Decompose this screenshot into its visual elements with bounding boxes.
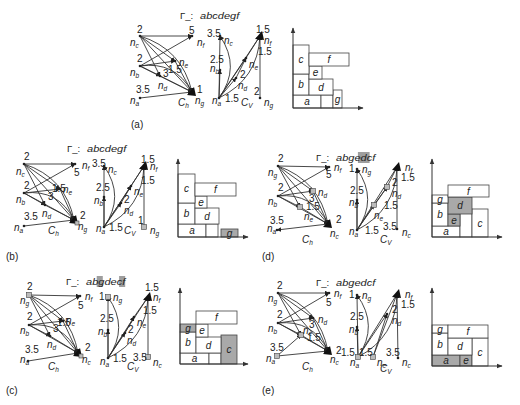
node-nc-dot-icon — [23, 163, 26, 166]
packing-chart: aecbdgf — [432, 288, 502, 366]
node-nb-weight: 2.5 — [350, 185, 364, 196]
module-label-e: e — [199, 325, 205, 336]
edge-g-f — [278, 166, 329, 167]
panel-label-a: (a) — [131, 119, 143, 130]
node-nb-dot-icon — [356, 326, 359, 329]
graph-name-cv: CV — [380, 234, 392, 246]
node-ne-square-icon — [298, 205, 303, 210]
constraint-graph-ch: 2nc5nf1.5ne2nb3nd2ng3.5naCh — [14, 151, 91, 237]
node-ne-dot-icon — [130, 185, 133, 188]
node-label-nd: nd — [42, 208, 52, 220]
panel-b: Γ_: abcdegf2nc5nf1.5ne2nb3nd2ng3.5naCh3.… — [6, 143, 248, 262]
node-label-nc: nc — [402, 357, 412, 369]
node-nd-dot-icon — [386, 313, 389, 316]
sequence-title: Γ_: abcdegf — [67, 143, 128, 154]
module-label-e: e — [313, 67, 319, 78]
node-label-nd: nd — [158, 80, 168, 92]
node-nc-weight: 3.5 — [386, 347, 400, 358]
node-nb-weight: 2 — [137, 53, 143, 64]
edge-a-g — [357, 169, 368, 230]
node-nd-dot-icon — [235, 77, 238, 80]
node-ne-dot-icon — [174, 60, 177, 63]
node-label-nf: nf — [150, 161, 159, 173]
node-label-ng: ng — [268, 167, 278, 180]
node-nb-dot-icon — [277, 195, 280, 198]
edge-a-c — [277, 351, 328, 356]
node-label-na: na — [130, 95, 140, 107]
constraint-graph-ch: 2ng5nf3nd2nb1.5ne2nc3.5naCh — [266, 280, 343, 373]
node-nf-weight: 5 — [326, 297, 332, 308]
graph-name-ch: Ch — [178, 97, 189, 109]
node-label-nb: nb — [98, 326, 108, 338]
node-nb-weight: 2 — [277, 309, 283, 320]
node-label-ne: ne — [66, 315, 76, 327]
module-label-d: d — [318, 82, 324, 93]
panel-label-d: (d) — [262, 251, 274, 262]
node-label-nc: nc — [153, 357, 163, 369]
node-nf-weight: 1.5 — [401, 299, 415, 310]
node-label-nb: nb — [94, 195, 104, 207]
node-ng-weight: 1 — [99, 291, 105, 302]
node-label-ne: ne — [304, 211, 314, 223]
node-nb-dot-icon — [277, 322, 280, 325]
node-ne-weight: 1.5 — [258, 46, 272, 57]
node-ng-square-icon — [106, 295, 111, 300]
node-nd-dot-icon — [124, 332, 127, 335]
node-nc-weight: 2 — [24, 151, 30, 162]
module-label-g: g — [437, 324, 443, 335]
node-ng-weight: 2 — [254, 86, 260, 97]
node-label-nc: nc — [330, 228, 340, 240]
node-nb-weight: 2 — [27, 311, 33, 322]
node-nb-weight: 2 — [278, 182, 284, 193]
graph-name-cv: CV — [380, 363, 392, 375]
node-nb-weight: 2 — [24, 180, 30, 191]
sequence-value: abgedcf — [336, 277, 377, 288]
node-nd-square-icon — [385, 185, 390, 190]
node-nc-weight: 2 — [336, 214, 342, 225]
sequence-title: Γ_: abgdecf — [66, 276, 127, 287]
node-na-weight: 1.5 — [365, 225, 379, 236]
panel-label-c: (c) — [6, 385, 18, 396]
module-label-g: g — [335, 94, 341, 105]
node-label-ng: ng — [362, 164, 372, 177]
node-ng-weight: 2 — [277, 280, 283, 291]
node-nf-dot-icon — [328, 166, 331, 169]
packing-chart: agbdecf — [178, 159, 248, 239]
node-nd-weight: 2 — [392, 177, 398, 188]
node-nc-dot-icon — [139, 35, 142, 38]
constraint-graph-ch: 2ng5nf1.5ne2nb3nd2nc3.5naCh — [20, 281, 94, 373]
module-label-e: e — [451, 215, 457, 226]
node-label-nf: nf — [405, 162, 414, 174]
node-na-weight: 3.5 — [136, 84, 150, 95]
node-nf-dot-icon — [328, 292, 331, 295]
sequence-title: Γ_: abgedcf — [316, 277, 377, 288]
edge-g-f — [29, 295, 80, 296]
module-label-b: b — [184, 208, 190, 219]
module-block-empty — [206, 224, 218, 237]
node-nb-dot-icon — [103, 196, 106, 199]
module-label-d: d — [457, 341, 463, 352]
node-label-nb: nb — [130, 67, 140, 79]
module-block-empty — [209, 353, 221, 364]
node-nd-dot-icon — [159, 75, 162, 78]
node-nb-weight: 2.5 — [96, 182, 110, 193]
node-nd-weight: 3 — [309, 319, 315, 330]
node-label-na: na — [20, 354, 30, 366]
panel-label-b: (b) — [6, 251, 18, 262]
sequence-title: Γ_: abcdegf — [180, 10, 241, 21]
node-label-ng: ng — [78, 221, 88, 234]
node-label-nd: nd — [238, 80, 248, 92]
node-label-ne: ne — [249, 59, 259, 71]
graph-name-ch: Ch — [302, 361, 313, 373]
panel-a: Γ_: abcdegf2nc5nf1.5ne2nb3nd1ng3.5naCh3.… — [130, 10, 363, 130]
module-label-b: b — [185, 337, 191, 348]
node-label-ng: ng — [195, 95, 205, 108]
node-nb-dot-icon — [23, 192, 26, 195]
node-ne-weight: 1.5 — [141, 175, 155, 186]
node-na-dot-icon — [107, 357, 110, 360]
constraint-graph-ch: 2nc5nf1.5ne2nb3nd1ng3.5naCh — [130, 24, 206, 109]
packing-chart: acbedgf — [432, 159, 502, 237]
node-nf-dot-icon — [79, 295, 82, 298]
node-na-dot-icon — [139, 97, 142, 100]
sequence-prefix: Γ_: — [67, 143, 80, 154]
